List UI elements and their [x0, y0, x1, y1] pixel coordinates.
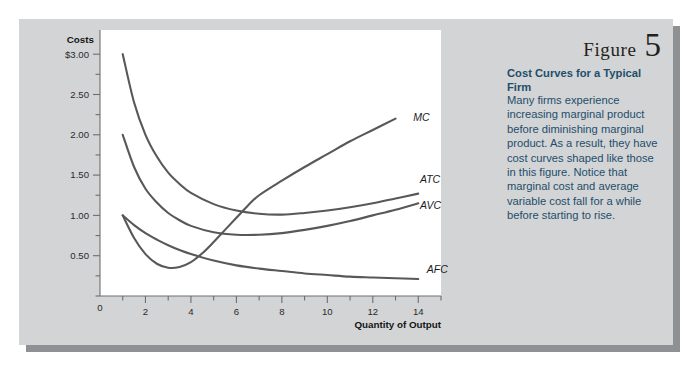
cost-curves-chart: 0.501.001.502.002.50$3.00 2468101214 Cos… — [19, 19, 489, 345]
x-tick-label: 2 — [143, 306, 148, 317]
x-tick-label: 10 — [322, 306, 333, 317]
x-tick-label: 12 — [367, 306, 378, 317]
origin-label: 0 — [97, 302, 102, 313]
y-axis-title: Costs — [67, 34, 95, 45]
caption-title: Cost Curves for a Typical Firm — [507, 66, 664, 95]
curve-label-mc: MC — [413, 111, 430, 123]
y-tick-label: 1.00 — [70, 210, 89, 221]
x-tick-label: 14 — [413, 306, 424, 317]
x-tick-label: 8 — [279, 306, 284, 317]
y-tick-label: 2.00 — [70, 129, 89, 140]
y-tick-label: 0.50 — [70, 250, 89, 261]
curve-label-avc: AVC — [419, 199, 441, 211]
figure-root: 0.501.001.502.002.50$3.00 2468101214 Cos… — [0, 0, 694, 377]
caption-body: Many firms experience increasing margina… — [507, 93, 664, 223]
caption-column: Figure 5 Cost Curves for a Typical Firm … — [507, 19, 667, 345]
curve-label-afc: AFC — [426, 263, 448, 275]
figure-number: 5 — [645, 29, 662, 62]
y-tick-label: 1.50 — [70, 169, 89, 180]
y-tick-label: 2.50 — [70, 89, 89, 100]
x-tick-label: 6 — [234, 306, 239, 317]
y-tick-label: $3.00 — [65, 49, 89, 60]
curve-label-atc: ATC — [419, 173, 441, 185]
x-tick-label: 4 — [188, 306, 194, 317]
y-axis-ticks: 0.501.001.502.002.50$3.00 — [65, 49, 100, 296]
plot-background — [100, 30, 441, 296]
chart-container: 0.501.001.502.002.50$3.00 2468101214 Cos… — [19, 19, 489, 345]
figure-heading: Figure 5 — [583, 29, 661, 62]
x-axis-title: Quantity of Output — [354, 319, 441, 330]
figure-word: Figure — [583, 39, 636, 61]
figure-panel: 0.501.001.502.002.50$3.00 2468101214 Cos… — [19, 19, 673, 345]
x-axis-ticks: 2468101214 — [123, 296, 441, 317]
